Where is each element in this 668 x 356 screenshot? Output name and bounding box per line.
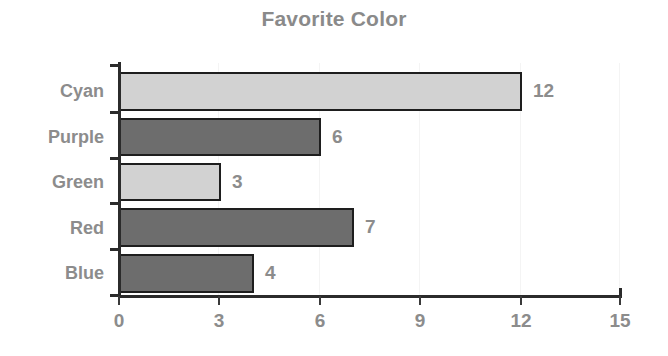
y-axis-label-green: Green	[0, 172, 104, 193]
y-tick-cyan-top	[110, 64, 119, 67]
bar-value-cyan: 12	[533, 80, 554, 102]
y-axis-label-cyan: Cyan	[0, 81, 104, 102]
y-axis-label-red: Red	[0, 218, 104, 239]
bar-blue[interactable]	[118, 254, 254, 293]
y-tick-purple	[110, 111, 119, 114]
chart-title: Favorite Color	[0, 7, 668, 31]
x-tick-3	[218, 296, 220, 305]
y-tick-red	[110, 202, 119, 205]
bar-cyan[interactable]	[118, 72, 522, 111]
y-axis-label-purple: Purple	[0, 127, 104, 148]
x-tick-6	[319, 296, 321, 305]
bar-value-red: 7	[365, 216, 376, 238]
bar-purple[interactable]	[118, 118, 321, 156]
y-tick-blue	[110, 248, 119, 251]
y-axis-label-blue: Blue	[0, 263, 104, 284]
x-tick-12	[520, 296, 522, 305]
y-tick-green	[110, 157, 119, 160]
x-tick-15	[619, 296, 621, 305]
x-axis-tick-label-12: 12	[491, 310, 551, 332]
bar-value-purple: 6	[332, 126, 343, 148]
gridline-15	[619, 63, 620, 296]
x-axis-tick-label-6: 6	[290, 310, 350, 332]
x-axis-tick-label-9: 9	[390, 310, 450, 332]
x-tick-0	[118, 296, 120, 305]
bar-value-blue: 4	[265, 262, 276, 284]
x-axis-tick-label-15: 15	[590, 310, 650, 332]
bar-value-green: 3	[232, 171, 243, 193]
y-axis-line	[118, 62, 121, 298]
bar-red[interactable]	[118, 208, 354, 247]
bar-chart: Favorite Color 12 6 3 7 4 Cyan Purple Gr…	[0, 0, 668, 356]
x-axis-tick-label-3: 3	[189, 310, 249, 332]
x-tick-9	[419, 296, 421, 305]
x-axis-tick-label-0: 0	[89, 310, 149, 332]
bar-green[interactable]	[118, 163, 221, 201]
x-axis-line	[118, 295, 622, 298]
